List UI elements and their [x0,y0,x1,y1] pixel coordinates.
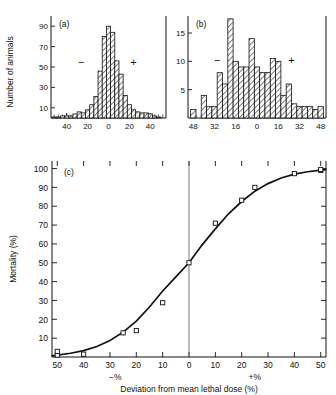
x-tick-label: 0 [187,360,192,370]
histogram-bar [60,116,64,118]
histogram-bar [286,84,291,118]
histogram-bar [73,114,77,118]
data-point-marker [187,261,191,265]
x-tick-label: 30 [105,360,115,370]
histogram-bar [207,107,212,118]
data-point-marker [240,198,244,202]
data-point-marker [292,172,296,176]
y-tick-label: 70 [39,43,48,52]
data-point-marker [161,301,165,305]
histogram-bar [94,97,98,118]
data-point-marker [121,331,125,335]
histogram-bar [102,36,106,118]
x-tick-label: 50 [316,360,326,370]
minus-sign-a: − [78,56,84,68]
y-axis-label-top: Number of animals [5,36,15,107]
y-tick-label: 60 [39,239,49,249]
x-tick-label: 48 [189,122,198,131]
x-tick-label: 20 [237,360,247,370]
histogram-bar [260,73,265,118]
y-axis-label-c: Mortality (%) [8,235,18,283]
pos-percent-label: +% [249,372,262,382]
panel-b-histogram: 510154832160163248−+(b) [176,16,326,131]
histogram-bar [238,67,243,118]
histogram-bar [140,113,144,118]
x-tick-label: 16 [231,122,240,131]
x-tick-label: 40 [290,360,300,370]
x-tick-label: 40 [62,122,71,131]
histogram-bar [265,73,270,118]
figure-canvas: 1030507090402002040−+(a) 510154832160163… [0,0,336,395]
data-point-marker [82,352,86,356]
histogram-bar [201,95,206,118]
histogram-bar [276,61,281,118]
x-tick-label: 20 [132,360,142,370]
histogram-bar [217,73,222,118]
x-tick-label: 16 [274,122,283,131]
x-tick-label: 0 [106,122,111,131]
histogram-bar [318,107,323,118]
histogram-bar [144,113,148,118]
y-tick-label: 50 [39,258,49,268]
x-tick-label: 50 [53,360,63,370]
histogram-bar [98,71,102,118]
histogram-bar [212,107,217,118]
histogram-bar [119,74,123,118]
y-tick-label: 5 [181,86,186,95]
x-axis-label-c: Deviation from mean lethal dose (%) [120,384,258,394]
x-tick-label: 10 [158,360,168,370]
histogram-bar [254,67,259,118]
data-point-marker [319,167,323,171]
histogram-bar [123,96,127,118]
histogram-bar [106,26,110,118]
x-tick-label: 32 [295,122,304,131]
histogram-bar [115,61,119,118]
histogram-bar [90,105,94,118]
y-tick-label: 10 [176,57,185,66]
histogram-bar [132,110,136,118]
histogram-bar [281,95,286,118]
x-tick-label: 32 [210,122,219,131]
histogram-bar [52,117,56,118]
histogram-bar [81,113,85,118]
histogram-bar [136,112,140,118]
histogram-bar [292,104,297,118]
y-tick-label: 15 [176,29,185,38]
histogram-bar [302,107,307,118]
y-tick-label: 10 [39,104,48,113]
x-tick-label: 20 [125,122,134,131]
histogram-bar [77,112,81,118]
histogram-bar [233,61,238,118]
histogram-bar [249,39,254,118]
histogram-bar [270,59,275,119]
histogram-bar [65,116,69,118]
histogram-bar [127,105,131,118]
histogram-bar [56,117,60,118]
x-tick-label: 10 [211,360,221,370]
y-tick-label: 90 [39,22,48,31]
y-tick-label: 80 [39,201,49,211]
histogram-bar [313,110,318,119]
x-tick-label: 40 [79,360,89,370]
x-tick-label: 40 [146,122,155,131]
histogram-bar [297,107,302,118]
minus-sign-b: − [214,54,220,66]
y-tick-label: 50 [39,63,48,72]
histogram-bar [244,67,249,118]
plus-sign-a: + [130,56,136,68]
plus-sign-b: + [288,54,294,66]
histogram-bar [223,84,228,118]
neg-percent-label: −% [109,372,122,382]
y-tick-label: 10 [39,333,49,343]
x-tick-label: 48 [316,122,325,131]
data-point-marker [55,349,59,353]
data-point-marker [213,221,217,225]
histogram-bar [152,116,156,118]
panel-a-tag: (a) [59,19,70,29]
histogram-bar [69,116,73,118]
data-point-marker [253,185,257,189]
y-tick-label: 90 [39,183,49,193]
x-tick-label: 30 [263,360,273,370]
y-tick-label: 30 [39,296,49,306]
data-point-marker [134,329,138,333]
